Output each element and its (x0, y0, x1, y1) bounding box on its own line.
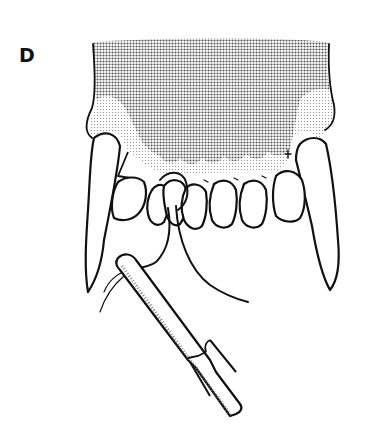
tooth-5 (210, 181, 237, 228)
dental-illustration (0, 0, 373, 444)
tooth-4 (182, 185, 207, 229)
tooth-6 (240, 181, 267, 228)
tooth-1 (112, 178, 146, 221)
tooth-7 (273, 171, 305, 222)
wire (100, 150, 291, 312)
incisors (112, 171, 305, 229)
needle-holder (116, 254, 241, 416)
